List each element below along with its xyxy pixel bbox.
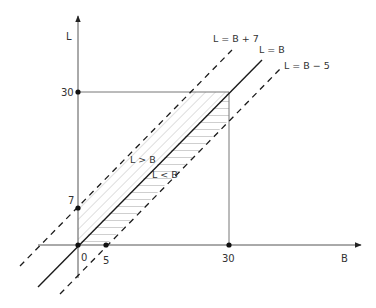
label-l-equals-b-minus-5: L = B − 5 <box>284 60 330 71</box>
label-l-greater-b: L > B <box>130 154 156 165</box>
b-thirty-label: 30 <box>222 253 235 264</box>
l-seven-label: 7 <box>68 195 74 206</box>
b-thirty-dot <box>226 242 231 247</box>
origin-dot <box>75 242 80 247</box>
region-l-greater-b <box>78 55 229 245</box>
l-seven-dot <box>75 205 80 210</box>
l-thirty-label: 30 <box>61 87 74 98</box>
line-l-equals-b-plus-7 <box>20 50 232 266</box>
b-axis-label: B <box>341 253 348 264</box>
diagram-canvas: L B 0 5 30 7 30 L = B + 7 L = B L = B − … <box>0 0 376 308</box>
b-five-dot <box>103 242 108 247</box>
b-five-label: 5 <box>103 255 109 266</box>
line-l-equals-b-minus-5 <box>60 66 283 294</box>
label-l-equals-b-plus-7: L = B + 7 <box>213 33 259 44</box>
l-axis-label: L <box>66 31 72 42</box>
l-thirty-dot <box>75 89 80 94</box>
label-l-less-b: L < B <box>152 169 178 180</box>
origin-label: 0 <box>81 252 87 263</box>
label-l-equals-b: L = B <box>259 44 285 55</box>
